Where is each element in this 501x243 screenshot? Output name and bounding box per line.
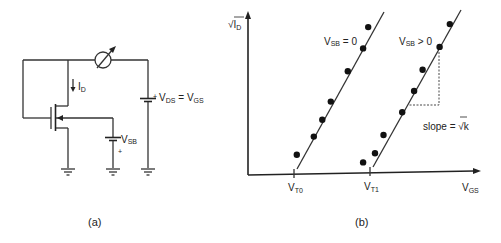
x-axis [248, 171, 474, 175]
data-point-series-0-5 [360, 45, 366, 51]
data-point-series-0-6 [365, 24, 371, 30]
x-axis-label: VGS [462, 182, 479, 194]
vds-label: +VDS = VGS [153, 92, 204, 104]
tick-label-vt1: VT1 [364, 181, 379, 193]
vsb-label: VSB [121, 134, 137, 145]
data-point-series-1-5 [419, 67, 425, 73]
data-point-series-1-1 [372, 150, 378, 156]
body-arrow-icon [57, 115, 63, 121]
drain-current-label: ID [78, 81, 86, 93]
data-point-series-0-2 [319, 117, 325, 123]
svg-text:√ID: √ID [228, 19, 241, 31]
y-axis-arrow-icon [245, 11, 251, 19]
y-axis-label: √ID [228, 17, 244, 31]
slope-triangle [409, 52, 439, 105]
nmos-transistor [51, 104, 113, 131]
drain-current-arrow-icon [71, 79, 76, 92]
data-point-series-0-0 [294, 152, 300, 158]
tick-label-vt0: VT0 [288, 182, 303, 194]
ground-icon [106, 169, 120, 175]
slope-label: slope = √k [423, 117, 470, 132]
x-axis-arrow-icon [473, 168, 481, 174]
panel-a-caption: (a) [88, 216, 101, 228]
vsb-plus-sign: + [118, 148, 122, 155]
data-point-series-1-2 [380, 132, 386, 138]
data-point-series-1-0 [360, 159, 366, 165]
curve-label-vsb-positive: VSB > 0 [399, 36, 432, 47]
fit-line-vsb-positive [373, 10, 461, 167]
svg-text:slope = √k: slope = √k [423, 121, 470, 132]
data-point-series-1-7 [447, 21, 453, 27]
ammeter-icon [95, 46, 116, 68]
data-point-series-1-6 [436, 44, 442, 50]
data-point-series-0-4 [345, 68, 351, 74]
ground-icon [141, 169, 155, 175]
data-point-series-1-4 [411, 88, 417, 94]
figure: ID VSB + +VDS = VGS [0, 0, 501, 243]
ground-icon [61, 169, 75, 175]
panel-b-caption: (b) [355, 216, 368, 228]
circuit-diagram: ID VSB + +VDS = VGS [23, 46, 204, 228]
curve-label-vsb-0: VSB = 0 [324, 36, 357, 47]
data-point-series-0-1 [311, 133, 317, 139]
data-point-series-1-3 [399, 109, 405, 115]
data-point-series-0-3 [328, 98, 334, 104]
sqrt-id-vs-vgs-plot: √ID VGS VT0 VT1 VSB = 0 VSB > 0 slope = … [228, 10, 481, 228]
vsb-battery-icon [105, 138, 121, 141]
